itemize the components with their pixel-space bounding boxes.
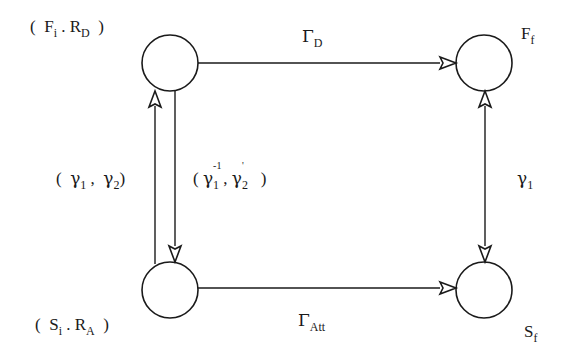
- subscript: 2: [242, 178, 248, 192]
- edge-left-up: [149, 91, 161, 264]
- reaction-subscript: A: [86, 324, 95, 338]
- node-final-top: [456, 35, 512, 91]
- gamma-lowercase: γ: [70, 168, 80, 188]
- label-initial-top: ( Fi . RD ): [30, 17, 104, 41]
- paren-open: (: [56, 169, 62, 188]
- gamma-lowercase: γ: [232, 168, 242, 188]
- reaction-subscript: D: [81, 26, 90, 40]
- paren-close: ): [120, 169, 126, 188]
- arrowhead-icon: [169, 246, 181, 262]
- label-edge-right: γ1: [517, 168, 533, 193]
- label-initial-bottom: ( Si . RA ): [35, 315, 109, 339]
- paren-open: (: [30, 17, 36, 36]
- arrowhead-icon: [479, 246, 491, 262]
- label-edge-bottom: ΓAtt: [298, 310, 325, 335]
- state-subscript: i: [54, 26, 57, 40]
- separator: .: [61, 17, 65, 36]
- edge-subscript: D: [314, 36, 323, 50]
- label-edge-left-down: ( γ-11 , γ'2 ): [193, 168, 266, 193]
- node-initial-bottom: [142, 262, 198, 318]
- edge-subscript: Att: [310, 320, 325, 334]
- paren-open: (: [35, 315, 41, 334]
- superscript: ': [242, 160, 244, 171]
- label-final-top: Ff: [521, 24, 534, 48]
- superscript: -1: [213, 160, 221, 171]
- node-initial-top: [142, 35, 198, 91]
- arrowhead-icon: [149, 91, 161, 107]
- arrowhead-icon: [440, 282, 456, 294]
- edge-bottom-horizontal: [198, 282, 456, 294]
- label-edge-top: ΓD: [302, 26, 322, 51]
- node-final-bottom: [456, 262, 512, 318]
- edge-right-bidirectional: [479, 91, 491, 262]
- label-edge-left-up: ( γ1 , γ2): [56, 168, 125, 193]
- gamma-lowercase: γ: [103, 168, 113, 188]
- reaction-symbol: R: [70, 17, 81, 36]
- paren-close: ): [261, 169, 267, 188]
- state-subscript: f: [533, 331, 537, 345]
- paren-close: ): [98, 17, 104, 36]
- state-subscript: i: [59, 324, 62, 338]
- edge-left-down: [169, 91, 181, 262]
- gamma-uppercase: Γ: [302, 26, 314, 46]
- subscript: 1: [80, 178, 86, 192]
- gamma-lowercase: γ: [203, 168, 213, 188]
- arrowhead-icon: [440, 57, 456, 69]
- reaction-symbol: R: [75, 315, 86, 334]
- state-symbol: S: [49, 315, 58, 334]
- subscript: 1: [213, 178, 219, 192]
- arrowhead-icon: [479, 91, 491, 107]
- label-final-bottom: Sf: [524, 322, 537, 346]
- edge-top-horizontal: [198, 57, 456, 69]
- separator: ,: [223, 169, 227, 188]
- gamma-uppercase: Γ: [298, 310, 310, 330]
- separator: .: [66, 315, 70, 334]
- paren-close: ): [103, 315, 109, 334]
- state-subscript: f: [530, 33, 534, 47]
- subscript: 1: [527, 178, 533, 192]
- state-symbol: F: [44, 17, 53, 36]
- separator: ,: [91, 169, 95, 188]
- paren-open: (: [193, 169, 199, 188]
- gamma-lowercase: γ: [517, 168, 527, 188]
